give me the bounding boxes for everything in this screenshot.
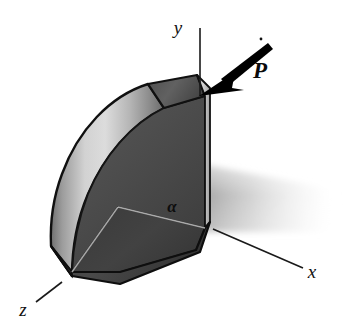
x-axis-line bbox=[213, 229, 303, 268]
sector-solid-diagram: y x z P α bbox=[0, 0, 344, 330]
ground-shadow bbox=[205, 165, 338, 232]
z-axis-label: z bbox=[18, 299, 27, 320]
z-axis-line bbox=[36, 282, 62, 302]
force-label: P bbox=[252, 58, 268, 83]
x-axis-label: x bbox=[307, 261, 317, 282]
y-axis-label: y bbox=[172, 17, 183, 38]
ink-speck bbox=[260, 38, 263, 41]
figure-canvas: y x z P α bbox=[0, 0, 344, 330]
angle-alpha-label: α bbox=[167, 197, 177, 216]
angle-alpha: α bbox=[167, 197, 177, 216]
quarter-sector-solid bbox=[51, 75, 210, 284]
